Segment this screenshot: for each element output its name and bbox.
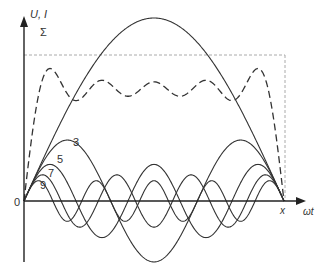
- plot-area: U, I Σ 0 x ωt 3 5 7 9: [0, 0, 328, 274]
- y-axis-arrow-icon: [20, 16, 28, 27]
- harmonic-curve-1: [24, 18, 284, 201]
- origin-label: 0: [14, 196, 20, 208]
- harmonic-label-9: 9: [40, 179, 46, 191]
- x-axis-arrow-icon: [296, 197, 306, 205]
- x-axis-label: ωt: [303, 206, 315, 217]
- sum-label: Σ: [40, 26, 47, 38]
- harmonic-label-3: 3: [73, 136, 79, 148]
- end-label: x: [279, 205, 286, 216]
- harmonic-label-7: 7: [48, 167, 54, 179]
- y-axis-label: U, I: [30, 8, 47, 20]
- harmonic-label-5: 5: [57, 153, 63, 165]
- fourier-diagram: U, I Σ 0 x ωt 3 5 7 9: [0, 0, 328, 274]
